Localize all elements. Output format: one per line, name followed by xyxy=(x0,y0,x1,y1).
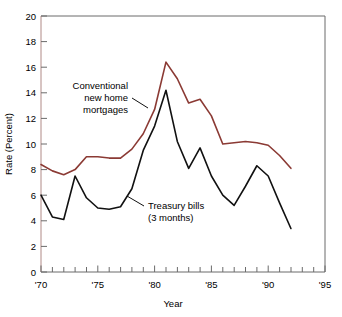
y-tick-label: 0 xyxy=(31,267,36,278)
y-tick-label: 2 xyxy=(31,241,36,252)
tbills-annotation-line-2: (3 months) xyxy=(148,212,193,223)
y-tick-label: 18 xyxy=(25,36,36,47)
mortgages-annotation-line-3: mortgages xyxy=(83,104,128,115)
x-tick-label: '95 xyxy=(319,279,331,290)
y-axis-title: Rate (Percent) xyxy=(3,113,14,175)
tbills-annotation-line-1: Treasury bills xyxy=(148,200,204,211)
y-tick-label: 14 xyxy=(25,87,36,98)
x-tick-label: '70 xyxy=(35,279,47,290)
interest-rates-line-chart: 20 18 16 14 12 10 8 6 4 2 0 xyxy=(0,0,342,317)
mortgages-annotation-line-1: Conventional xyxy=(73,80,128,91)
x-tick-label: '85 xyxy=(205,279,217,290)
x-tick-label: '80 xyxy=(148,279,160,290)
y-tick-label: 8 xyxy=(31,164,36,175)
y-tick-label: 16 xyxy=(25,62,36,73)
y-tick-label: 12 xyxy=(25,113,36,124)
y-tick-label: 10 xyxy=(25,139,36,150)
x-tick-label: '90 xyxy=(262,279,274,290)
y-tick-label: 4 xyxy=(31,215,36,226)
chart-figure: 20 18 16 14 12 10 8 6 4 2 0 xyxy=(0,0,342,317)
y-tick-label: 20 xyxy=(25,11,36,22)
mortgages-annotation-line-2: new home xyxy=(84,92,128,103)
x-axis-title: Year xyxy=(163,298,182,309)
y-tick-label: 6 xyxy=(31,190,36,201)
x-tick-label: '75 xyxy=(92,279,104,290)
